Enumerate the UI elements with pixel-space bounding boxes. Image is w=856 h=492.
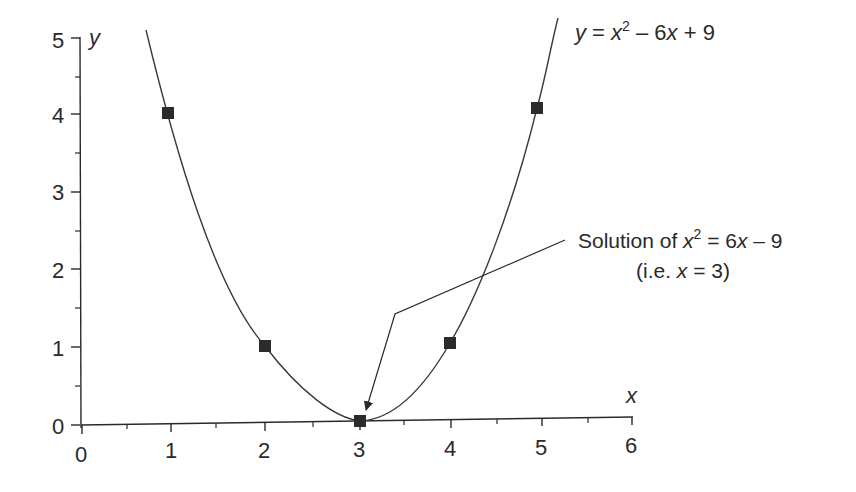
annotation-leader-line — [366, 240, 565, 410]
x-tick-label-1: 1 — [165, 438, 177, 463]
x-tick-label-2: 2 — [258, 438, 270, 463]
marker-point-5-4 — [531, 102, 543, 114]
marker-point-2-1 — [259, 340, 271, 352]
parabola-curve — [146, 18, 558, 421]
parabola-chart: 5 4 3 2 1 0 y 0 1 2 3 4 5 6 x — [0, 0, 856, 492]
solution-annotation: Solution of x2 = 6x – 9 (i.e. x = 3) — [366, 226, 783, 410]
x-tick-label-6: 6 — [625, 433, 637, 458]
x-tick-label-4: 4 — [444, 436, 456, 461]
y-tick-label-2: 2 — [52, 258, 64, 283]
x-axis-label: x — [625, 383, 638, 408]
y-tick-label-4: 4 — [52, 103, 64, 128]
x-tick-label-0: 0 — [75, 442, 87, 467]
y-tick-label-1: 1 — [52, 336, 64, 361]
annotation-line-1: Solution of x2 = 6x – 9 — [578, 226, 783, 252]
y-tick-label-0: 0 — [52, 414, 64, 439]
x-tick-label-3: 3 — [353, 437, 365, 462]
x-tick-label-5: 5 — [535, 435, 547, 460]
y-axis: 5 4 3 2 1 0 y — [52, 25, 102, 439]
data-markers — [162, 102, 543, 427]
marker-point-1-4 — [162, 107, 174, 119]
y-axis-label: y — [87, 25, 102, 50]
marker-point-4-1 — [444, 337, 456, 349]
curve-equation-label: y = x2 – 6x + 9 — [573, 18, 715, 45]
marker-point-3-0 — [354, 415, 366, 427]
y-tick-label-5: 5 — [52, 28, 64, 53]
y-tick-label-3: 3 — [52, 180, 64, 205]
annotation-line-2: (i.e. x = 3) — [636, 259, 730, 282]
